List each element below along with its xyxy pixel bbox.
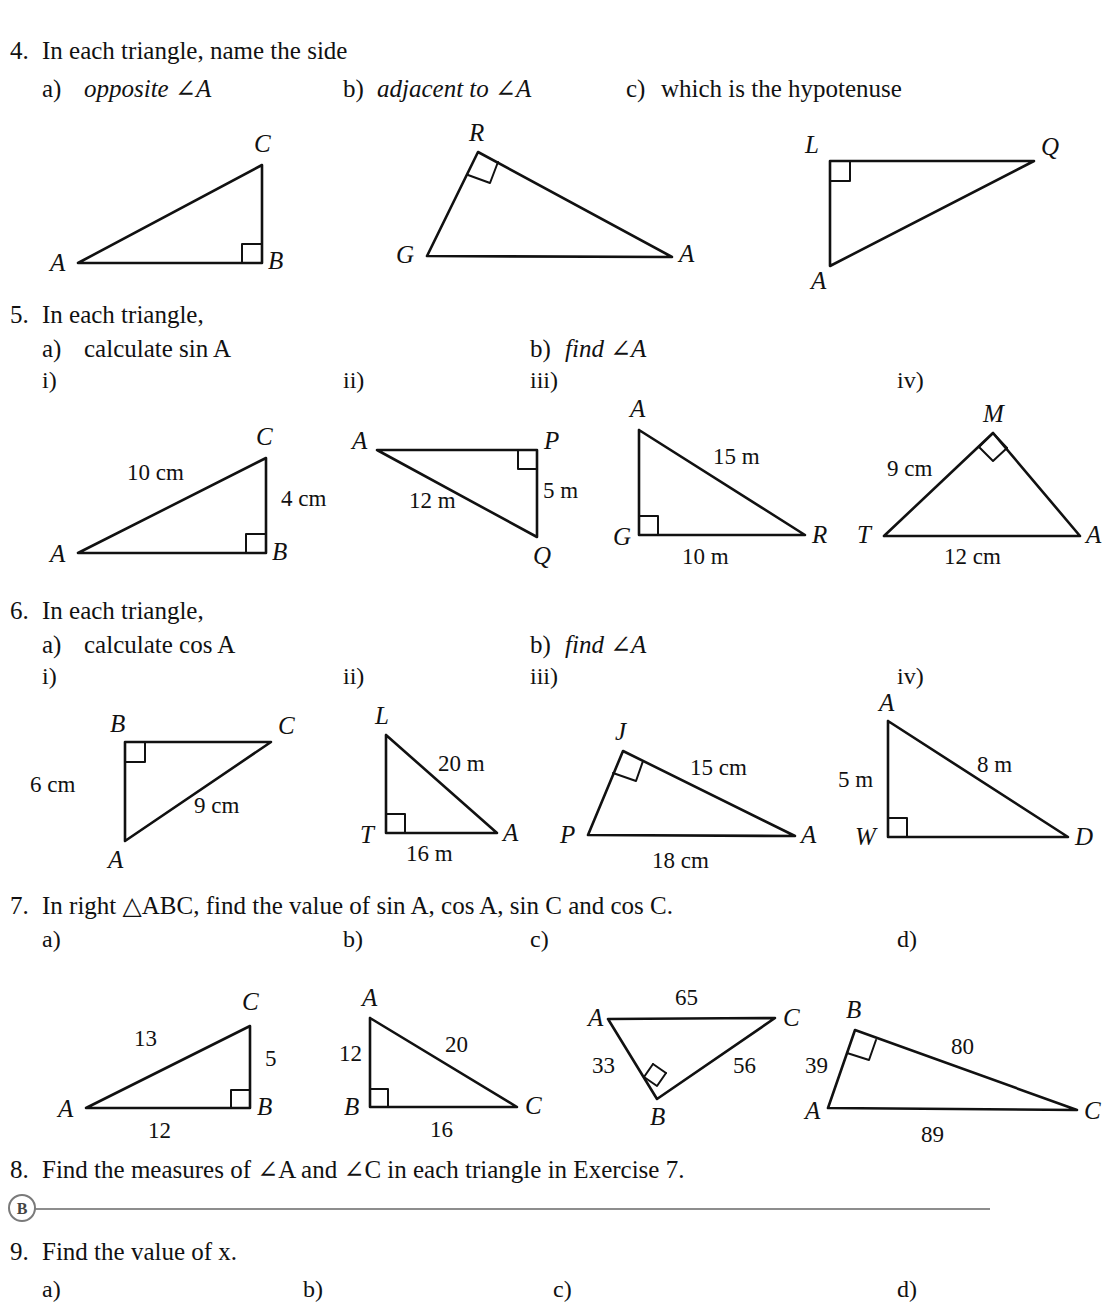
vertex-label-q4a-B: B — [268, 248, 283, 273]
measure-q7a-13: 13 — [134, 1026, 157, 1051]
figure-q6ii — [386, 735, 497, 833]
figure-q4b — [427, 152, 672, 257]
vertex-label-q6iii-P: P — [560, 822, 575, 847]
vertex-label-q4b-R: R — [469, 120, 484, 145]
vertex-label-q5iii-G: G — [613, 524, 631, 549]
exercise-5-part-b-text: find ∠A — [565, 334, 646, 364]
exercise-4-stem: In each triangle, name the side — [42, 36, 347, 66]
exercise-6-number: 6. — [10, 596, 29, 626]
vertex-label-q4a-C: C — [254, 131, 271, 156]
exercise-6-roman-i: i) — [42, 662, 57, 690]
measure-q7d-39: 39 — [805, 1053, 828, 1078]
figure-q5ii — [377, 450, 537, 537]
exercise-5-roman-iv: iv) — [897, 366, 924, 394]
vertex-label-q5i-C: C — [256, 424, 273, 449]
exercise-6-part-b-label: b) — [530, 630, 551, 660]
exercise-6-part-b-text: find ∠A — [565, 630, 646, 660]
exercise-5-stem: In each triangle, — [42, 300, 204, 330]
vertex-label-q6ii-L: L — [375, 703, 389, 728]
exercise-4-part-b-label: b) — [343, 74, 364, 104]
exercise-9-part-d: d) — [897, 1275, 917, 1303]
vertex-label-q5iii-A: A — [630, 396, 645, 421]
exercise-8-stem: Find the measures of ∠A and ∠C in each t… — [42, 1155, 684, 1185]
vertex-label-q7d-C: C — [1084, 1098, 1101, 1123]
exercise-4-part-c-text: which is the hypotenuse — [661, 74, 902, 104]
exercise-6-roman-ii: ii) — [343, 662, 364, 690]
exercise-4-part-a-text: opposite ∠A — [84, 74, 211, 104]
measure-q7c-33: 33 — [592, 1053, 615, 1078]
figure-q7b — [370, 1018, 517, 1107]
measure-q6ii-20m: 20 m — [438, 751, 485, 776]
exercise-6-part-a-label: a) — [42, 630, 61, 660]
exercise-6-part-a-text: calculate cos A — [84, 630, 235, 660]
measure-q7b-16: 16 — [430, 1117, 453, 1142]
exercise-8-number: 8. — [10, 1155, 29, 1185]
exercise-5-number: 5. — [10, 300, 29, 330]
vertex-label-q5iv-T: T — [857, 522, 871, 547]
vertex-label-q7c-C: C — [783, 1005, 800, 1030]
exercise-7-part-d: d) — [897, 925, 917, 953]
exercise-7-number: 7. — [10, 891, 29, 921]
vertex-label-q7c-B: B — [650, 1104, 665, 1129]
vertex-label-q7d-B: B — [846, 997, 861, 1022]
figure-q6i — [125, 742, 271, 841]
vertex-label-q7d-A: A — [805, 1098, 820, 1123]
exercise-4-part-c-label: c) — [626, 74, 645, 104]
exercise-4-part-b-text: adjacent to ∠A — [377, 74, 531, 104]
exercise-6-stem: In each triangle, — [42, 596, 204, 626]
measure-q6i-9cm: 9 cm — [194, 793, 239, 818]
exercise-9-part-a: a) — [42, 1275, 61, 1303]
exercise-7-part-b: b) — [343, 925, 363, 953]
vertex-label-q6iii-J: J — [615, 719, 626, 744]
measure-q7d-89: 89 — [921, 1122, 944, 1147]
measure-q5i-10cm: 10 cm — [127, 460, 184, 485]
vertex-label-q4b-G: G — [396, 242, 414, 267]
measure-q5iv-9cm: 9 cm — [887, 456, 932, 481]
figure-q4a — [78, 165, 262, 263]
vertex-label-q4b-A: A — [679, 241, 694, 266]
vertex-label-q6ii-A: A — [503, 820, 518, 845]
vertex-label-q5iv-A: A — [1086, 522, 1101, 547]
measure-q7c-56: 56 — [733, 1053, 756, 1078]
vertex-label-q6iv-D: D — [1075, 824, 1093, 849]
measure-q7b-20: 20 — [445, 1032, 468, 1057]
exercise-5-roman-iii: iii) — [530, 366, 558, 394]
measure-q6i-6cm: 6 cm — [30, 772, 75, 797]
vertex-label-q7a-B: B — [257, 1094, 272, 1119]
section-badge-b: B — [8, 1194, 36, 1222]
vertex-label-q7c-A: A — [588, 1005, 603, 1030]
vertex-label-q5ii-Q: Q — [533, 543, 551, 568]
vertex-label-q6iv-A: A — [879, 690, 894, 715]
vertex-label-q5i-A: A — [50, 541, 65, 566]
exercise-6-roman-iii: iii) — [530, 662, 558, 690]
exercise-5-roman-ii: ii) — [343, 366, 364, 394]
exercise-6-roman-iv: iv) — [897, 662, 924, 690]
measure-q5iii-10m: 10 m — [682, 544, 729, 569]
measure-q6iv-5m: 5 m — [838, 767, 873, 792]
vertex-label-q7a-A: A — [58, 1096, 73, 1121]
measure-q7b-12: 12 — [339, 1041, 362, 1066]
measure-q7a-5: 5 — [265, 1046, 277, 1071]
exercise-9-part-b: b) — [303, 1275, 323, 1303]
vertex-label-q7b-B: B — [344, 1094, 359, 1119]
exercise-4-part-a-label: a) — [42, 74, 61, 104]
vertex-label-q5ii-A: A — [352, 428, 367, 453]
section-divider — [22, 1208, 990, 1210]
figure-q6iv — [888, 721, 1068, 837]
vertex-label-q4c-Q: Q — [1041, 134, 1059, 159]
vertex-label-q6ii-T: T — [360, 822, 374, 847]
vertex-label-q5iii-R: R — [812, 522, 827, 547]
exercise-5-part-a-label: a) — [42, 334, 61, 364]
measure-q6iv-8m: 8 m — [977, 752, 1012, 777]
exercise-5-part-a-text: calculate sin A — [84, 334, 231, 364]
measure-q6iii-15cm: 15 cm — [690, 755, 747, 780]
vertex-label-q6iv-W: W — [855, 824, 876, 849]
measure-q5i-4cm: 4 cm — [281, 486, 326, 511]
exercise-9-stem: Find the value of x. — [42, 1237, 237, 1267]
vertex-label-q6iii-A: A — [801, 822, 816, 847]
exercise-5-part-b-label: b) — [530, 334, 551, 364]
measure-q7c-65: 65 — [675, 985, 698, 1010]
vertex-label-q6i-A: A — [108, 847, 123, 872]
measure-q6iii-18cm: 18 cm — [652, 848, 709, 873]
vertex-label-q4a-A: A — [50, 250, 65, 275]
